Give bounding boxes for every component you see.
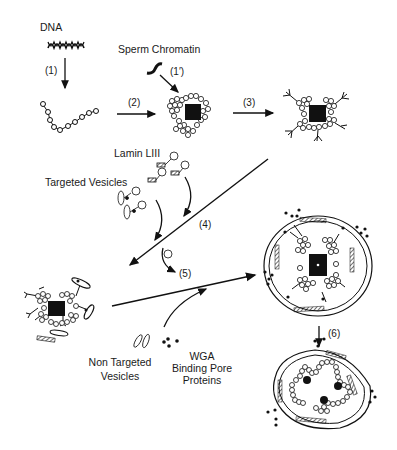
label-step-1-prime: (1′): [170, 66, 184, 78]
chromatin-with-bound-vesicles-icon: [24, 276, 96, 342]
label-step-1: (1): [45, 65, 57, 77]
label-step-5: (5): [179, 268, 191, 280]
arrow-step-4: [130, 159, 268, 265]
label-sperm-chromatin: Sperm Chromatin: [118, 43, 200, 55]
dna-helix-icon: [48, 42, 84, 48]
label-wga-line-3: Proteins: [166, 374, 238, 386]
label-non-targeted-line-1: Non Targeted: [80, 356, 160, 368]
label-non-targeted-vesicles: Non Targeted Vesicles: [80, 356, 160, 382]
label-step-3: (3): [243, 97, 255, 109]
assembled-nucleus-icon: [263, 208, 372, 316]
label-step-6: (6): [328, 328, 340, 340]
wga-pore-proteins-icon: [162, 337, 179, 348]
arrow-wga-to-nucleus: [164, 289, 206, 327]
chromatin-with-receptors-icon: [283, 89, 349, 141]
final-nucleus-icon: [266, 337, 376, 428]
label-dna: DNA: [40, 21, 62, 33]
label-non-targeted-line-2: Vesicles: [80, 370, 160, 382]
nucleosome-string-icon: [41, 102, 99, 133]
arrow-lamin-to-step-4: [184, 177, 191, 216]
decondensed-chromatin-icon: [167, 93, 210, 137]
arrow-vesicles-to-step-4: [155, 200, 162, 240]
label-wga-line-2: Binding Pore: [166, 362, 238, 374]
label-wga-pore-proteins: WGA Binding Pore Proteins: [166, 350, 238, 386]
label-targeted-vesicles: Targeted Vesicles: [45, 176, 127, 188]
label-wga-line-1: WGA: [166, 350, 238, 362]
label-lamin: Lamin LIII: [114, 147, 160, 159]
targeted-vesicles-icon: [118, 187, 146, 219]
label-step-4: (4): [199, 219, 211, 231]
phosphate-icon: [164, 250, 172, 258]
non-targeted-vesicles-icon: [132, 334, 150, 349]
sperm-chromatin-icon: [147, 64, 162, 73]
label-step-2: (2): [128, 97, 140, 109]
